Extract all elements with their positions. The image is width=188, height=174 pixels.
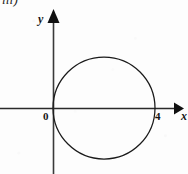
y-axis-label: y [38,13,43,25]
x-tick-label-4: 4 [155,111,161,122]
coordinate-plot [0,0,188,174]
x-tick-label-0: 0 [43,111,49,122]
x-axis-label: x [181,110,187,122]
item-enumerator-label: iii) [2,0,18,6]
y-axis-arrow-icon [48,9,60,23]
figure-canvas: iii) y x 0 4 [0,0,188,174]
